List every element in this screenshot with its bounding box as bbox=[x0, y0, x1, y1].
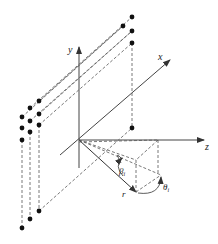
array-dots bbox=[20, 15, 135, 231]
array-point bbox=[37, 123, 42, 128]
y-axis-label: y bbox=[67, 44, 73, 55]
array-point bbox=[20, 138, 25, 143]
r-label: r bbox=[122, 189, 126, 199]
x-axis-label: x bbox=[157, 51, 163, 62]
z-axis-label: z bbox=[204, 141, 209, 152]
r-vector bbox=[79, 140, 136, 192]
array-point bbox=[28, 119, 33, 124]
diagram-canvas: y x z r βi θi bbox=[0, 0, 218, 244]
array-point bbox=[37, 112, 42, 117]
array-point bbox=[20, 115, 25, 120]
array-point bbox=[130, 15, 135, 20]
array-projection-lines bbox=[22, 17, 132, 228]
array-point bbox=[37, 209, 42, 214]
array-point bbox=[28, 217, 33, 222]
array-point bbox=[130, 29, 135, 34]
theta-arc bbox=[138, 177, 161, 193]
array-point bbox=[28, 130, 33, 135]
beta-label: βi bbox=[118, 166, 125, 177]
array-point bbox=[20, 126, 25, 131]
array-point bbox=[130, 126, 135, 131]
array-point bbox=[28, 106, 33, 111]
array-point bbox=[37, 99, 42, 104]
array-point bbox=[130, 41, 135, 46]
theta-label: θi bbox=[163, 182, 169, 193]
array-point bbox=[121, 24, 126, 29]
array-point bbox=[20, 226, 25, 231]
